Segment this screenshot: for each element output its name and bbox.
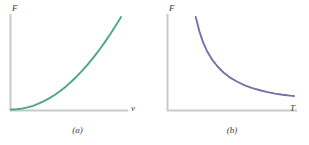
panel-caption-b: (b) xyxy=(155,126,309,135)
panel-caption-a: (a) xyxy=(0,126,155,135)
chart-panel-a: F v (a) xyxy=(0,0,155,145)
data-curve-b xyxy=(196,17,294,96)
plot-area-b xyxy=(155,0,309,145)
plot-area-a xyxy=(0,0,155,145)
y-axis-label-b: F xyxy=(169,4,175,13)
x-axis-label-a: v xyxy=(131,104,135,113)
figure-container: F v (a) F T (b) xyxy=(0,0,309,145)
chart-panel-b: F T (b) xyxy=(155,0,309,145)
x-axis-label-b: T xyxy=(290,104,295,113)
y-axis-label-a: F xyxy=(12,4,18,13)
data-curve-a xyxy=(11,17,121,110)
